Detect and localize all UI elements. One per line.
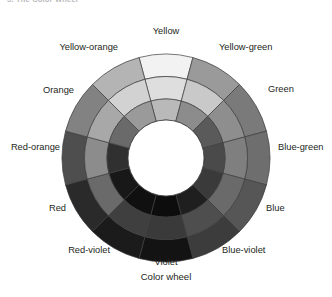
wheel-label-red-orange: Red-orange xyxy=(11,142,60,152)
wheel-label-yellow-orange: Yellow-orange xyxy=(59,42,118,52)
wheel-segment-violet-middle xyxy=(145,215,187,240)
wheel-segment-yellow-outer xyxy=(139,54,193,79)
wheel-segment-blue-green-middle xyxy=(223,137,248,179)
wheel-label-yellow: Yellow xyxy=(153,26,180,36)
cutoff-section-heading: 5. The Color Wheel xyxy=(7,0,78,3)
color-wheel-figure: 5. The Color Wheel YellowYellow-greenGre… xyxy=(0,0,332,297)
wheel-label-red-violet: Red-violet xyxy=(68,245,110,255)
wheel-label-blue: Blue xyxy=(266,203,285,213)
wheel-segment-red-orange-outer xyxy=(62,131,87,185)
wheel-label-orange: Orange xyxy=(43,85,74,95)
figure-caption: Color wheel xyxy=(141,271,192,282)
wheel-label-red: Red xyxy=(49,203,66,213)
wheel-label-violet: Violet xyxy=(154,257,177,267)
wheel-label-blue-violet: Blue-violet xyxy=(222,245,265,255)
wheel-center-hole xyxy=(128,120,204,196)
wheel-segment-red-orange-middle xyxy=(85,137,110,179)
wheel-label-yellow-green: Yellow-green xyxy=(219,42,272,52)
wheel-segment-yellow-middle xyxy=(145,77,187,102)
wheel-label-blue-green: Blue-green xyxy=(278,142,323,152)
wheel-segment-blue-green-outer xyxy=(245,131,270,185)
wheel-label-green: Green xyxy=(268,84,294,94)
